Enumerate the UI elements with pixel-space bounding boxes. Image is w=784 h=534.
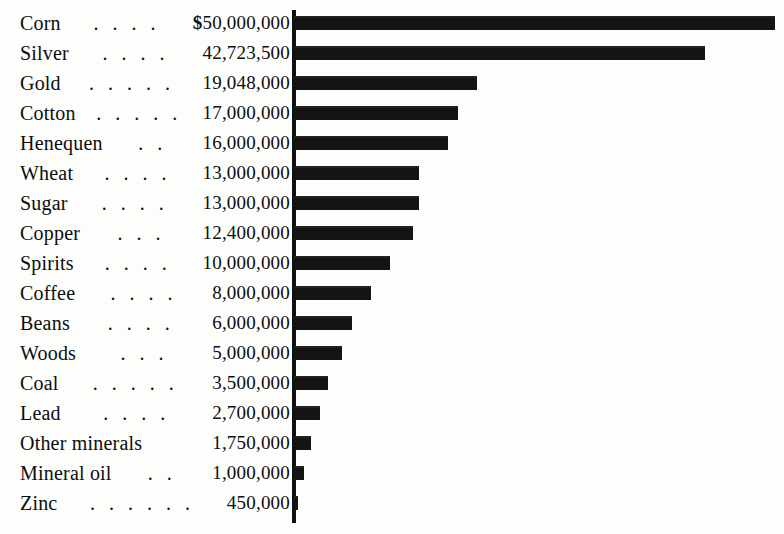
chart-row: Corn. . . .$50,000,000 <box>0 8 784 38</box>
category-label: Coal <box>0 368 59 398</box>
leader-dots: . . <box>112 458 213 488</box>
bar <box>294 346 342 360</box>
value-label: 10,000,000 <box>203 248 293 278</box>
bar <box>294 406 320 420</box>
leader-dots: . . . <box>80 218 202 248</box>
row-label-block: Other minerals1,750,000 <box>0 428 292 458</box>
category-label: Zinc <box>0 488 57 518</box>
chart-row: Gold. . . . .19,048,000 <box>0 68 784 98</box>
leader-dots: . . . . <box>74 248 203 278</box>
row-label-block: Corn. . . .$50,000,000 <box>0 8 292 38</box>
category-label: Spirits <box>0 248 74 278</box>
bar <box>294 496 298 510</box>
value-number: 8,000,000 <box>212 282 290 303</box>
value-number: 19,048,000 <box>203 72 291 93</box>
category-label: Coffee <box>0 278 75 308</box>
value-number: 450,000 <box>227 492 290 513</box>
value-label: $50,000,000 <box>193 8 292 38</box>
leader-dots: . . . . . <box>76 98 203 128</box>
value-number: 2,700,000 <box>212 402 290 423</box>
value-number: 42,723,500 <box>203 42 291 63</box>
chart-row: Sugar. . . .13,000,000 <box>0 188 784 218</box>
leader-dots: . . . . <box>61 8 193 38</box>
row-label-block: Henequen. .16,000,000 <box>0 128 292 158</box>
value-label: 3,500,000 <box>212 368 292 398</box>
bar <box>294 76 477 90</box>
value-label: 13,000,000 <box>203 158 293 188</box>
value-label: 16,000,000 <box>203 128 293 158</box>
value-number: 12,400,000 <box>203 222 291 243</box>
value-number: 10,000,000 <box>203 252 291 273</box>
row-label-block: Lead. . . .2,700,000 <box>0 398 292 428</box>
row-label-block: Coal. . . . .3,500,000 <box>0 368 292 398</box>
chart-row: Other minerals1,750,000 <box>0 428 784 458</box>
leader-dots: . . . . . . <box>57 488 226 518</box>
value-label: 13,000,000 <box>203 188 293 218</box>
row-label-block: Woods. . .5,000,000 <box>0 338 292 368</box>
currency-symbol: $ <box>193 12 203 33</box>
value-label: 1,750,000 <box>212 428 292 458</box>
bar <box>294 196 419 210</box>
bar <box>294 226 413 240</box>
bar <box>294 16 775 30</box>
chart-row: Henequen. .16,000,000 <box>0 128 784 158</box>
value-number: 5,000,000 <box>212 342 290 363</box>
chart-row: Lead. . . .2,700,000 <box>0 398 784 428</box>
chart-row: Coal. . . . .3,500,000 <box>0 368 784 398</box>
category-label: Beans <box>0 308 70 338</box>
category-label: Henequen <box>0 128 103 158</box>
row-label-block: Wheat. . . .13,000,000 <box>0 158 292 188</box>
chart-row: Beans. . . .6,000,000 <box>0 308 784 338</box>
row-label-block: Beans. . . .6,000,000 <box>0 308 292 338</box>
leader-dots: . . . . <box>61 398 212 428</box>
chart-row: Wheat. . . .13,000,000 <box>0 158 784 188</box>
leader-dots: . . . . <box>70 308 212 338</box>
row-label-block: Gold. . . . .19,048,000 <box>0 68 292 98</box>
value-label: 450,000 <box>227 488 292 518</box>
value-number: 3,500,000 <box>212 372 290 393</box>
bar <box>294 286 371 300</box>
row-label-block: Sugar. . . .13,000,000 <box>0 188 292 218</box>
chart-row: Zinc. . . . . .450,000 <box>0 488 784 518</box>
row-label-block: Copper. . .12,400,000 <box>0 218 292 248</box>
value-number: 13,000,000 <box>203 192 291 213</box>
chart-row: Woods. . .5,000,000 <box>0 338 784 368</box>
leader-dots: . . . . . <box>59 368 213 398</box>
leader-dots: . . . . <box>68 188 203 218</box>
bar <box>294 376 328 390</box>
leader-dots: . . . <box>76 338 212 368</box>
value-number: 13,000,000 <box>203 162 291 183</box>
bar <box>294 46 705 60</box>
leader-dots: . . . . <box>75 278 212 308</box>
category-label: Silver <box>0 38 69 68</box>
value-number: 50,000,000 <box>203 12 291 33</box>
leader-dots: . . <box>103 128 203 158</box>
bar <box>294 436 311 450</box>
row-label-block: Spirits. . . .10,000,000 <box>0 248 292 278</box>
leader-dots: . . . . . <box>61 68 203 98</box>
leader-dots: . . . . <box>69 38 203 68</box>
bar <box>294 106 458 120</box>
value-label: 12,400,000 <box>203 218 293 248</box>
category-label: Lead <box>0 398 61 428</box>
row-label-block: Cotton. . . . .17,000,000 <box>0 98 292 128</box>
value-number: 6,000,000 <box>212 312 290 333</box>
value-label: 42,723,500 <box>203 38 293 68</box>
category-label: Copper <box>0 218 80 248</box>
chart-row: Cotton. . . . .17,000,000 <box>0 98 784 128</box>
row-label-block: Mineral oil. .1,000,000 <box>0 458 292 488</box>
chart-row: Copper. . .12,400,000 <box>0 218 784 248</box>
category-label: Corn <box>0 8 61 38</box>
bar <box>294 316 352 330</box>
value-label: 19,048,000 <box>203 68 293 98</box>
leader-dots: . . . . <box>73 158 202 188</box>
chart-row: Spirits. . . .10,000,000 <box>0 248 784 278</box>
row-label-block: Coffee. . . .8,000,000 <box>0 278 292 308</box>
chart-row: Coffee. . . .8,000,000 <box>0 278 784 308</box>
value-number: 1,750,000 <box>212 432 290 453</box>
category-label: Sugar <box>0 188 68 218</box>
value-label: 2,700,000 <box>212 398 292 428</box>
value-label: 1,000,000 <box>212 458 292 488</box>
value-label: 17,000,000 <box>203 98 293 128</box>
category-label: Cotton <box>0 98 76 128</box>
